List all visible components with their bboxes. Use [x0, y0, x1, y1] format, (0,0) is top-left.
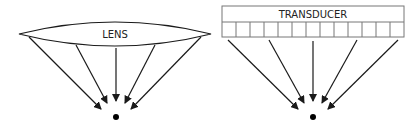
lens-label: LENS: [102, 29, 128, 40]
diagram-canvas: LENS TRANSDUCER: [0, 0, 417, 123]
lens-ray-5: [131, 37, 201, 109]
lens-focal-point: [113, 114, 119, 120]
lens-diagram: LENS: [19, 22, 211, 120]
transducer-ray-4: [322, 40, 357, 103]
lens-ray-1: [29, 37, 101, 109]
lens-ray-2: [76, 45, 107, 103]
lens-rays: [29, 37, 201, 109]
transducer-focal-point: [310, 114, 316, 120]
transducer-ray-2: [269, 40, 304, 103]
transducer-diagram: TRANSDUCER: [222, 6, 404, 120]
transducer-label: TRANSDUCER: [278, 9, 348, 20]
lens-ray-4: [125, 45, 155, 103]
transducer-rays: [228, 40, 398, 109]
